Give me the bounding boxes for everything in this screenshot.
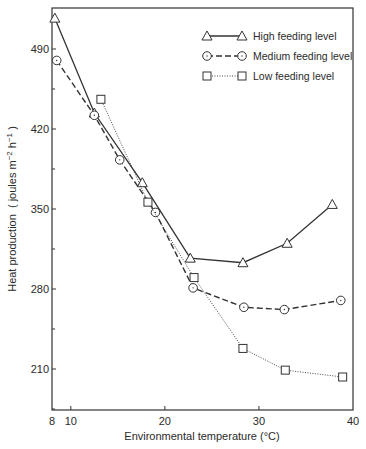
square-marker bbox=[144, 198, 152, 206]
y-tick-label: 420 bbox=[31, 123, 49, 135]
x-tick-label: 8 bbox=[49, 415, 55, 427]
circle-marker-dot bbox=[284, 309, 285, 310]
square-marker bbox=[190, 274, 198, 282]
circle-marker-dot bbox=[119, 159, 120, 160]
square-marker bbox=[281, 366, 289, 374]
legend-label: Medium feeding level bbox=[253, 50, 352, 62]
legend-label: Low feeding level bbox=[253, 70, 334, 82]
x-axis: 810203040 bbox=[49, 406, 359, 427]
circle-marker-dot bbox=[94, 115, 95, 116]
legend-item: Medium feeding level bbox=[203, 50, 353, 62]
legend-item: Low feeding level bbox=[203, 70, 334, 82]
triangle-marker bbox=[185, 253, 195, 262]
circle-marker-dot bbox=[206, 55, 207, 56]
circle-marker-dot bbox=[243, 307, 244, 308]
y-tick-label: 350 bbox=[31, 203, 49, 215]
data-series bbox=[50, 13, 347, 381]
legend: High feeding levelMedium feeding levelLo… bbox=[202, 30, 352, 82]
y-tick-label: 210 bbox=[31, 363, 49, 375]
square-marker bbox=[238, 72, 246, 80]
heat-production-chart: 810203040 210280350420490 High feeding l… bbox=[0, 0, 366, 449]
y-axis-label-text: Heat production ( joules m−2 h−1 ) bbox=[5, 126, 18, 292]
square-marker bbox=[239, 344, 247, 352]
x-axis-label: Environmental temperature (°C) bbox=[124, 430, 279, 442]
series-line bbox=[101, 99, 343, 377]
y-tick-label: 490 bbox=[31, 43, 49, 55]
circle-marker-dot bbox=[192, 287, 193, 288]
square-marker bbox=[339, 373, 347, 381]
triangle-marker bbox=[50, 13, 60, 22]
y-tick-label: 280 bbox=[31, 283, 49, 295]
x-tick-label: 30 bbox=[253, 415, 265, 427]
triangle-marker bbox=[137, 178, 147, 187]
series-circle bbox=[52, 56, 345, 314]
circle-marker-dot bbox=[340, 300, 341, 301]
series-square bbox=[97, 95, 347, 381]
circle-marker-dot bbox=[56, 60, 57, 61]
triangle-marker bbox=[327, 199, 337, 208]
circle-marker-dot bbox=[241, 55, 242, 56]
x-tick-label: 20 bbox=[159, 415, 171, 427]
x-tick-label: 40 bbox=[347, 415, 359, 427]
x-tick-label: 10 bbox=[65, 415, 77, 427]
y-axis-label: Heat production ( joules m−2 h−1 ) bbox=[5, 126, 18, 292]
legend-label: High feeding level bbox=[253, 30, 336, 42]
square-marker bbox=[97, 95, 105, 103]
legend-item: High feeding level bbox=[202, 30, 336, 42]
square-marker bbox=[203, 72, 211, 80]
plot-frame bbox=[52, 8, 353, 410]
